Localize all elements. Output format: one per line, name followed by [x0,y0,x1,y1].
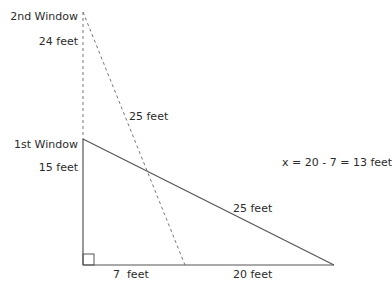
ladder-dashed [83,12,185,265]
label-dashed-ladder: 25 feet [129,110,169,123]
right-angle-marker [83,254,94,265]
label-first-window: 1st Window [14,138,78,151]
label-second-window: 2nd Window [10,10,78,23]
label-solid-ladder: 25 feet [233,202,273,215]
label-upper-wall: 24 feet [39,35,79,48]
ladder-diagram: 2nd Window 24 feet 25 feet 1st Window 15… [0,0,392,300]
label-base-short: 7 feet [113,268,149,281]
label-equation: x = 20 - 7 = 13 feet [282,156,392,169]
label-base-long: 20 feet [233,268,273,281]
label-lower-wall: 15 feet [39,161,79,174]
